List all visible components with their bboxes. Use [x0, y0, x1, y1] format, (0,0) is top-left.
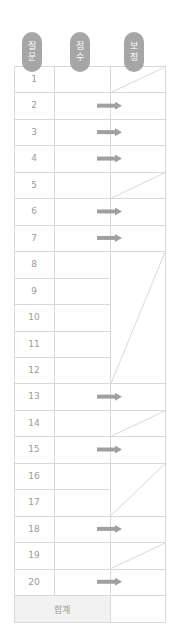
question-number: 8: [14, 259, 54, 269]
header-adjustment-char2: 정: [130, 52, 138, 63]
header-score: 점 수: [70, 32, 90, 72]
right-arrow-icon: [97, 128, 122, 136]
right-arrow-icon: [97, 102, 122, 110]
header-adjustment: 보 정: [124, 32, 144, 72]
question-number: 1: [14, 74, 54, 84]
header-score-char2: 수: [76, 52, 84, 63]
question-number: 10: [14, 312, 54, 322]
blocked-cell-diagonal: [111, 464, 165, 516]
right-arrow-icon: [97, 155, 122, 163]
question-number: 14: [14, 418, 54, 428]
blocked-cell-diagonal: [111, 543, 165, 568]
question-number: 17: [14, 497, 54, 507]
header-adjustment-char1: 보: [130, 41, 138, 52]
blocked-cell-diagonal: [111, 173, 165, 198]
question-number: 7: [14, 233, 54, 243]
header-question: 질 문: [22, 32, 42, 72]
question-number: 19: [14, 550, 54, 560]
question-number: 16: [14, 471, 54, 481]
question-number: 15: [14, 444, 54, 454]
question-number: 6: [14, 206, 54, 216]
header-score-char1: 점: [76, 41, 84, 52]
header-question-char2: 문: [28, 52, 36, 63]
right-arrow-icon: [97, 446, 122, 454]
total-label: 합계: [14, 603, 110, 616]
question-number: 3: [14, 127, 54, 137]
question-number: 18: [14, 524, 54, 534]
question-number: 20: [14, 577, 54, 587]
question-number: 9: [14, 286, 54, 296]
blocked-cell-diagonal: [111, 411, 165, 436]
question-number: 4: [14, 153, 54, 163]
question-number: 2: [14, 100, 54, 110]
header-question-char1: 질: [28, 41, 36, 52]
question-number: 12: [14, 365, 54, 375]
right-arrow-icon: [97, 393, 122, 401]
right-arrow-icon: [97, 525, 122, 533]
question-number: 13: [14, 391, 54, 401]
right-arrow-icon: [97, 578, 122, 586]
question-number: 11: [14, 339, 54, 349]
right-arrow-icon: [97, 207, 122, 215]
blocked-cell-diagonal: [111, 252, 165, 383]
right-arrow-icon: [97, 234, 122, 242]
question-number: 5: [14, 180, 54, 190]
